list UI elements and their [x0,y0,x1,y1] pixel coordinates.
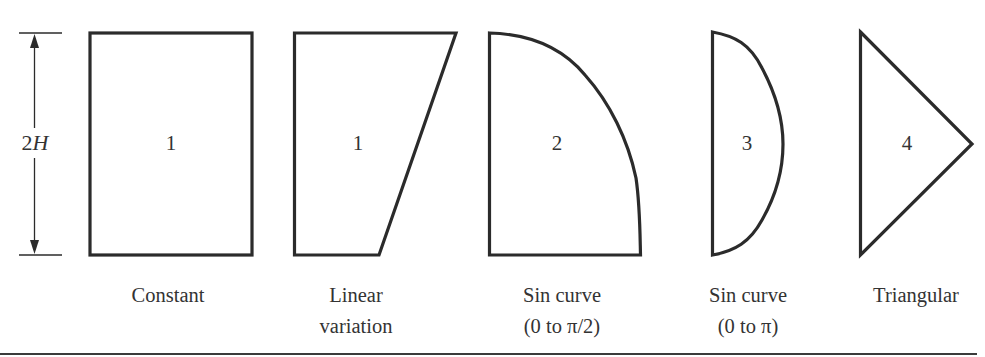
caption-sin-quarter-line-1: Sin curve [497,280,627,311]
caption-constant-line-1: Constant [108,280,228,311]
caption-triangular-line-1: Triangular [851,280,981,311]
caption-constant: Constant [108,280,228,311]
caption-linear-variation: Linear variation [296,280,416,342]
caption-sin-half-line-2: (0 to π) [688,311,808,342]
caption-sin-curve-quarter: Sin curve (0 to π/2) [497,280,627,342]
shape-number-sin-half: 3 [727,133,767,154]
caption-triangular: Triangular [851,280,981,311]
caption-sin-curve-half: Sin curve (0 to π) [688,280,808,342]
distribution-shapes-figure: 2H 1 1 2 3 4 Constant Linear variation S… [0,0,985,357]
arrow-down-icon [30,240,39,254]
shape-number-constant: 1 [151,133,191,154]
caption-sin-half-line-1: Sin curve [688,280,808,311]
shape-number-linear: 1 [338,133,378,154]
height-dimension-label: 2H [14,131,56,155]
caption-linear-line-1: Linear [296,280,416,311]
arrow-up-icon [30,34,39,48]
caption-sin-quarter-line-2: (0 to π/2) [497,311,627,342]
dimension-label-prefix: 2 [22,130,33,155]
dimension-label-variable: H [33,130,49,155]
shape-number-triangular: 4 [887,133,927,154]
bottom-rule-divider [0,353,977,355]
shape-number-sin-quarter: 2 [537,133,577,154]
caption-linear-line-2: variation [296,311,416,342]
